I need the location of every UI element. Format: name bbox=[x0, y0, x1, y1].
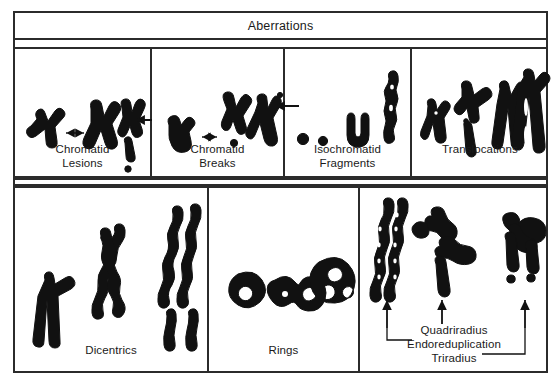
cell-isochromatid-fragments: Isochromatid Fragments bbox=[285, 51, 410, 178]
cell-caption-line2: Fragments bbox=[285, 157, 410, 171]
table-header-label: Aberrations bbox=[248, 19, 314, 33]
annotation-triradius-label: Triradius bbox=[431, 352, 476, 364]
annotation-quadriradius: Quadriradius bbox=[360, 324, 548, 338]
cell-caption-line1: Chromatid bbox=[152, 143, 283, 157]
cell-caption-line2: Breaks bbox=[152, 157, 283, 171]
cell-radials: Quadriradius Endoreduplication Triradius bbox=[360, 188, 548, 371]
cell-dicentrics: Dicentrics bbox=[15, 188, 207, 371]
annotation-quadriradius-label: Quadriradius bbox=[420, 324, 487, 336]
annotation-endoreduplication-label: Endoreduplication bbox=[407, 338, 501, 350]
row-gap-strip bbox=[13, 178, 548, 186]
aberrations-figure: Aberrations bbox=[0, 0, 558, 385]
cell-translocations: Translocations bbox=[412, 51, 548, 178]
table-header-aberrations: Aberrations bbox=[13, 11, 548, 40]
cell-caption-line1: Chromatid bbox=[15, 143, 150, 157]
cell-caption-line2: Lesions bbox=[15, 157, 150, 171]
cell-caption-line1: Translocations bbox=[412, 143, 548, 157]
header-spacer-strip bbox=[13, 40, 548, 49]
cell-caption-line1: Isochromatid bbox=[285, 143, 410, 157]
translocations-artwork bbox=[412, 51, 548, 178]
annotation-endoreduplication: Endoreduplication bbox=[360, 338, 548, 352]
cell-caption-line1: Dicentrics bbox=[15, 344, 207, 358]
cell-rings: Rings bbox=[209, 188, 358, 371]
cell-caption-line1: Rings bbox=[209, 344, 358, 358]
annotation-triradius: Triradius bbox=[360, 352, 548, 366]
cell-chromatid-breaks: Chromatid Breaks bbox=[152, 51, 283, 178]
